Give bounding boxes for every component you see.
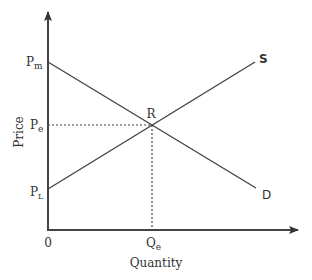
x-axis-title: Quantity <box>130 256 183 270</box>
equilibrium-point-label: R <box>146 107 156 121</box>
price-max-label: Pm <box>26 55 43 71</box>
y-axis-title: Price <box>12 116 26 147</box>
price-low-label: PL <box>30 185 44 201</box>
diagram-canvas: Pm Pe PL Price 0 Qe Quantity R S D <box>0 0 312 280</box>
origin-label: 0 <box>44 236 52 250</box>
supply-curve-label: S <box>259 52 268 66</box>
price-equilibrium-label: Pe <box>30 118 43 134</box>
demand-curve-label: D <box>262 188 271 202</box>
supply-demand-diagram: Pm Pe PL Price 0 Qe Quantity R S D <box>0 0 312 280</box>
quantity-equilibrium-label: Qe <box>146 236 161 252</box>
